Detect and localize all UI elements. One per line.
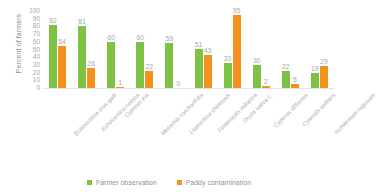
bar-group: 3395 bbox=[218, 11, 247, 88]
bar-value-label: 26 bbox=[87, 60, 95, 67]
x-axis-label-cell: Oryza sativa L. bbox=[218, 90, 247, 162]
bar-column[interactable]: 26 bbox=[87, 11, 95, 88]
x-axis-category-labels: Echinochloa crus-galliEchinochloa colona… bbox=[43, 90, 334, 162]
bar-column[interactable]: 22 bbox=[282, 11, 290, 88]
bar-groups: 825481266016022590514333953022251929 bbox=[43, 11, 334, 88]
y-axis-tick: 80 bbox=[33, 23, 40, 30]
bar-value-label: 95 bbox=[233, 7, 241, 14]
bar-value-label: 19 bbox=[311, 65, 319, 72]
bar-value-label: 81 bbox=[78, 18, 86, 25]
bar-value-label: 51 bbox=[195, 41, 203, 48]
x-axis-label-cell: Melochia corchorifolia bbox=[130, 90, 159, 162]
bar-value-label: 1 bbox=[118, 79, 122, 86]
bar[interactable] bbox=[107, 42, 115, 88]
bar-value-label: 5 bbox=[293, 76, 297, 83]
bar-column[interactable]: 54 bbox=[58, 11, 66, 88]
y-axis-tick: 20 bbox=[33, 70, 40, 77]
legend-color-swatch bbox=[177, 180, 182, 185]
y-axis-tick: 100 bbox=[29, 8, 40, 15]
bar-column[interactable]: 59 bbox=[165, 11, 173, 88]
bar-column[interactable]: 33 bbox=[224, 11, 232, 88]
bar-group: 1929 bbox=[305, 11, 334, 88]
bar[interactable] bbox=[311, 73, 319, 88]
bar[interactable] bbox=[136, 42, 144, 88]
x-axis-label-cell: Ischaemum rugosum bbox=[305, 90, 334, 162]
bar[interactable] bbox=[145, 71, 153, 88]
y-axis-title: Percent of farmers bbox=[15, 5, 22, 83]
bar-group: 590 bbox=[159, 11, 188, 88]
bar-column[interactable]: 60 bbox=[107, 11, 115, 88]
legend-color-swatch bbox=[87, 180, 92, 185]
x-axis-label-cell: Leptochloa chinensis bbox=[159, 90, 188, 162]
y-axis-tick: 50 bbox=[33, 47, 40, 54]
bar-column[interactable]: 19 bbox=[311, 11, 319, 88]
bar-column[interactable]: 29 bbox=[320, 11, 328, 88]
bar-group: 8254 bbox=[43, 11, 72, 88]
bar-value-label: 0 bbox=[177, 80, 181, 87]
bar[interactable] bbox=[253, 65, 261, 88]
bar-value-label: 22 bbox=[146, 63, 154, 70]
legend-item[interactable]: Farmer observation bbox=[87, 179, 157, 186]
y-axis-tick: 40 bbox=[33, 54, 40, 61]
y-axis-tick: 10 bbox=[33, 77, 40, 84]
legend-label: Paddy contamination bbox=[186, 179, 251, 186]
bar[interactable] bbox=[282, 71, 290, 88]
bar-value-label: 33 bbox=[224, 55, 232, 62]
bar-value-label: 30 bbox=[253, 57, 261, 64]
bar-group: 601 bbox=[101, 11, 130, 88]
bar-column[interactable]: 82 bbox=[49, 11, 57, 88]
y-axis-tick: 30 bbox=[33, 62, 40, 69]
x-axis-category-label: Ischaemum rugosum bbox=[334, 92, 377, 135]
x-axis-label-cell: Echinochloa crus-galli bbox=[43, 90, 72, 162]
bar-column[interactable]: 30 bbox=[253, 11, 261, 88]
bar-value-label: 60 bbox=[107, 34, 115, 41]
bar-column[interactable]: 43 bbox=[204, 11, 212, 88]
bar-column[interactable]: 95 bbox=[233, 11, 241, 88]
bar-group: 8126 bbox=[72, 11, 101, 88]
bar-value-label: 22 bbox=[282, 63, 290, 70]
bar-column[interactable]: 0 bbox=[174, 11, 182, 88]
bar[interactable] bbox=[320, 66, 328, 88]
bar[interactable] bbox=[78, 26, 86, 88]
bar[interactable] bbox=[195, 49, 203, 88]
bar-column[interactable]: 51 bbox=[195, 11, 203, 88]
bar[interactable] bbox=[165, 43, 173, 88]
x-axis-label-cell: Cyperus iria bbox=[101, 90, 130, 162]
legend-label: Farmer observation bbox=[96, 179, 157, 186]
bar-group: 5143 bbox=[188, 11, 217, 88]
y-axis-tick: 70 bbox=[33, 31, 40, 38]
bar[interactable] bbox=[87, 68, 95, 88]
x-axis-label-cell: Fimbristylis miliacea bbox=[188, 90, 217, 162]
y-axis-tick: 60 bbox=[33, 39, 40, 46]
x-axis-label-cell: Cyanotis axillaris bbox=[276, 90, 305, 162]
bar[interactable] bbox=[233, 15, 241, 88]
bar-value-label: 60 bbox=[137, 34, 145, 41]
x-axis-line bbox=[43, 88, 334, 89]
x-axis-label-cell: Cyperus difformis bbox=[247, 90, 276, 162]
bar-group: 302 bbox=[247, 11, 276, 88]
bar-value-label: 29 bbox=[320, 58, 328, 65]
bar[interactable] bbox=[49, 25, 57, 88]
bar[interactable] bbox=[58, 46, 66, 88]
bar-column[interactable]: 22 bbox=[145, 11, 153, 88]
bar-value-label: 2 bbox=[264, 78, 268, 85]
bar-column[interactable]: 2 bbox=[262, 11, 270, 88]
plot-area: 825481266016022590514333953022251929 bbox=[43, 11, 334, 89]
bar-column[interactable]: 5 bbox=[291, 11, 299, 88]
bar[interactable] bbox=[204, 55, 212, 88]
bar[interactable] bbox=[224, 63, 232, 88]
bar-value-label: 54 bbox=[58, 38, 66, 45]
bar-column[interactable]: 60 bbox=[136, 11, 144, 88]
chart-legend: Farmer observationPaddy contamination bbox=[0, 179, 338, 186]
y-axis-tick: 90 bbox=[33, 16, 40, 23]
bar-group: 225 bbox=[276, 11, 305, 88]
y-axis-tick-labels: 1009080706050403020100 bbox=[22, 11, 40, 89]
legend-item[interactable]: Paddy contamination bbox=[177, 179, 251, 186]
bar-value-label: 59 bbox=[166, 35, 174, 42]
bar-column[interactable]: 1 bbox=[116, 11, 124, 88]
bar-group: 6022 bbox=[130, 11, 159, 88]
y-axis-tick: 0 bbox=[36, 85, 40, 92]
bar-column[interactable]: 81 bbox=[78, 11, 86, 88]
bar-value-label: 43 bbox=[204, 47, 212, 54]
